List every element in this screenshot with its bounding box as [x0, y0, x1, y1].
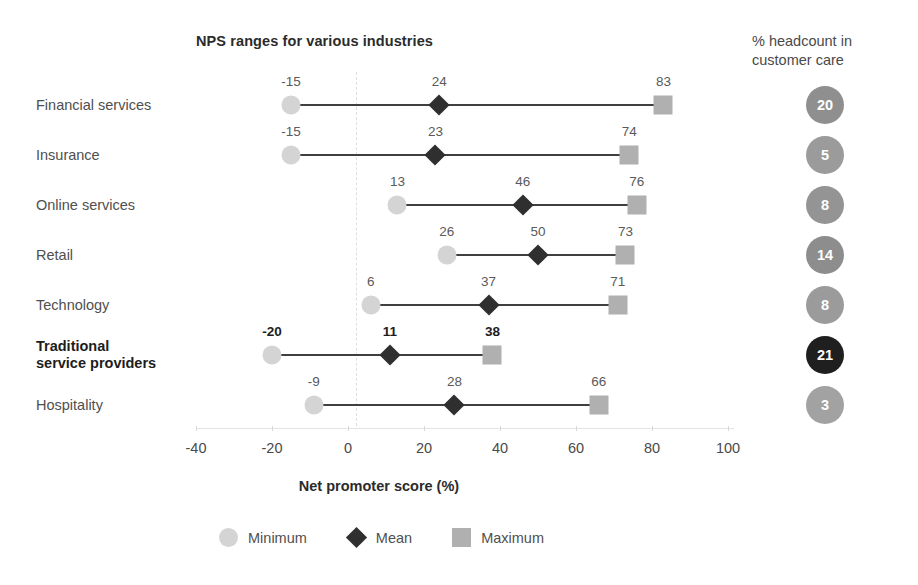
mean-value-label: 28: [447, 374, 462, 389]
maximum-value-label: 74: [622, 124, 637, 139]
x-axis-line: [196, 428, 734, 429]
mean-marker[interactable]: [444, 394, 465, 415]
minimum-marker[interactable]: [304, 396, 323, 415]
maximum-value-label: 73: [618, 224, 633, 239]
mean-value-label: 46: [515, 174, 530, 189]
category-label: Financial services: [36, 97, 216, 114]
minimum-value-label: -15: [281, 124, 301, 139]
x-axis-tick-label: 60: [568, 440, 584, 456]
x-axis-tick-label: -20: [262, 440, 283, 456]
legend-label-minimum: Minimum: [248, 530, 307, 546]
category-label: Traditional service providers: [36, 338, 216, 372]
headcount-bubble[interactable]: 5: [806, 136, 844, 174]
minimum-circle-icon: [219, 528, 238, 547]
plot-area: -40-20020406080100 Financial services-15…: [0, 0, 918, 585]
x-axis-tick: [196, 426, 197, 431]
maximum-marker[interactable]: [620, 146, 639, 165]
x-axis-tick-label: 80: [644, 440, 660, 456]
x-axis-tick: [348, 426, 349, 431]
chart-root: NPS ranges for various industries % head…: [0, 0, 918, 585]
maximum-marker[interactable]: [654, 96, 673, 115]
maximum-marker[interactable]: [627, 196, 646, 215]
minimum-value-label: 13: [390, 174, 405, 189]
headcount-bubble[interactable]: 21: [806, 336, 844, 374]
mean-diamond-icon: [346, 527, 367, 548]
maximum-square-icon: [452, 528, 471, 547]
mean-value-label: 37: [481, 274, 496, 289]
range-line: [291, 104, 663, 106]
mean-marker[interactable]: [527, 244, 548, 265]
x-axis-title-text: Net promoter score (%): [299, 478, 459, 494]
mean-marker[interactable]: [512, 194, 533, 215]
minimum-marker[interactable]: [282, 96, 301, 115]
headcount-bubble[interactable]: 20: [806, 86, 844, 124]
minimum-value-label: -9: [308, 374, 320, 389]
minimum-marker[interactable]: [388, 196, 407, 215]
x-axis-tick-label: 40: [492, 440, 508, 456]
category-label: Retail: [36, 247, 216, 264]
legend-item-mean: Mean: [347, 528, 412, 547]
maximum-marker[interactable]: [589, 396, 608, 415]
headcount-bubble[interactable]: 14: [806, 236, 844, 274]
legend-label-maximum: Maximum: [481, 530, 544, 546]
x-axis-tick: [424, 426, 425, 431]
x-axis-title: Net promoter score (%): [0, 478, 918, 494]
category-label: Hospitality: [36, 397, 216, 414]
minimum-value-label: 6: [367, 274, 375, 289]
x-axis-tick: [576, 426, 577, 431]
x-axis-tick-label: 0: [344, 440, 352, 456]
headcount-bubble[interactable]: 3: [806, 386, 844, 424]
mean-value-label: 50: [530, 224, 545, 239]
maximum-value-label: 71: [610, 274, 625, 289]
x-axis-tick-label: -40: [186, 440, 207, 456]
x-axis-tick-label: 20: [416, 440, 432, 456]
mean-marker[interactable]: [429, 94, 450, 115]
maximum-value-label: 66: [591, 374, 606, 389]
minimum-value-label: 26: [439, 224, 454, 239]
x-axis-tick: [500, 426, 501, 431]
legend-item-minimum: Minimum: [219, 528, 307, 547]
minimum-value-label: -20: [262, 324, 282, 339]
headcount-bubble[interactable]: 8: [806, 186, 844, 224]
legend-item-maximum: Maximum: [452, 528, 544, 547]
x-axis-tick: [272, 426, 273, 431]
maximum-marker[interactable]: [616, 246, 635, 265]
zero-reference-line: [356, 72, 357, 426]
maximum-value-label: 83: [656, 74, 671, 89]
minimum-value-label: -15: [281, 74, 301, 89]
maximum-marker[interactable]: [483, 346, 502, 365]
maximum-marker[interactable]: [608, 296, 627, 315]
mean-value-label: 24: [432, 74, 447, 89]
chart-legend: Minimum Mean Maximum: [0, 528, 918, 547]
legend-label-mean: Mean: [376, 530, 412, 546]
x-axis-tick-label: 100: [716, 440, 740, 456]
category-label: Online services: [36, 197, 216, 214]
minimum-marker[interactable]: [282, 146, 301, 165]
mean-value-label: 11: [383, 324, 397, 339]
mean-value-label: 23: [428, 124, 443, 139]
minimum-marker[interactable]: [263, 346, 282, 365]
headcount-bubble[interactable]: 8: [806, 286, 844, 324]
minimum-marker[interactable]: [361, 296, 380, 315]
mean-marker[interactable]: [425, 144, 446, 165]
minimum-marker[interactable]: [437, 246, 456, 265]
range-line: [291, 154, 629, 156]
maximum-value-label: 76: [629, 174, 644, 189]
category-label: Technology: [36, 297, 216, 314]
mean-marker[interactable]: [478, 294, 499, 315]
x-axis-tick: [728, 426, 729, 431]
maximum-value-label: 38: [485, 324, 500, 339]
category-label: Insurance: [36, 147, 216, 164]
mean-marker[interactable]: [379, 344, 400, 365]
x-axis-tick: [652, 426, 653, 431]
